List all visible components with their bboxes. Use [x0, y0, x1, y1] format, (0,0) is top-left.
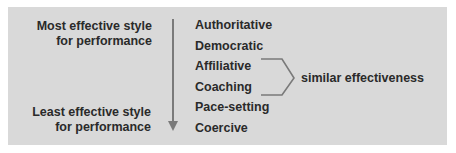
style-pace-setting: Pace-setting	[195, 100, 269, 114]
similar-effectiveness-label: similar effectiveness	[301, 71, 424, 86]
bracket-icon	[261, 59, 294, 95]
style-authoritative: Authoritative	[195, 18, 272, 32]
style-democratic: Democratic	[195, 39, 263, 53]
style-coercive: Coercive	[195, 121, 248, 135]
style-affiliative: Affiliative	[195, 59, 251, 73]
arrow-head-icon	[168, 121, 178, 131]
style-coaching: Coaching	[195, 80, 252, 94]
